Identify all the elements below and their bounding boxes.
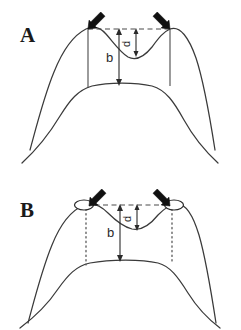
panel-b-measure-d-head-down [135,225,140,231]
panel-b-lower-contour [20,260,220,328]
panel-a-drawing: A b d [0,0,241,165]
panel-b-measure-d: d [121,204,140,231]
panel-a-measure-d-label: d [120,41,132,47]
panel-b-measure-b-label: b [107,225,114,240]
panel-b: B b d [0,165,241,330]
panel-b-measure-b: b [107,204,123,262]
panel-b-measure-d-label: d [121,216,133,222]
panel-b-measure-b-head-down [117,255,123,262]
panel-a: A b d [0,0,241,165]
panel-b-label: B [20,198,34,222]
panel-a-label: A [20,23,36,47]
panel-a-measure-b-label: b [106,50,113,65]
figure-root: A b d [0,0,241,330]
panel-a-lower-contour [22,83,218,163]
panel-b-drawing: B b d [0,165,241,330]
panel-a-measure-d-head-down [134,51,139,57]
